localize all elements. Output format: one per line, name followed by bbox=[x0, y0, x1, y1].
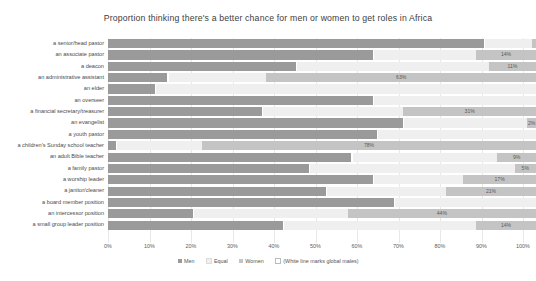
stacked-bar[interactable]: 63% bbox=[108, 73, 536, 82]
x-axis-tick: 40% bbox=[269, 243, 280, 249]
chart-row: an elder0% bbox=[0, 83, 536, 94]
global-male-marker bbox=[309, 164, 310, 173]
x-axis-tick: 90% bbox=[476, 243, 487, 249]
stacked-bar[interactable]: 1% bbox=[108, 39, 536, 48]
legend-item[interactable]: Men bbox=[178, 258, 195, 264]
chart-row: a worship leader17% bbox=[0, 174, 536, 185]
bar-segment-men[interactable] bbox=[108, 187, 326, 196]
bar-segment-equal[interactable] bbox=[373, 96, 536, 105]
bar-segment-women[interactable]: 9% bbox=[497, 153, 536, 162]
global-male-marker bbox=[403, 118, 404, 127]
chart-row: a family pastor5% bbox=[0, 163, 536, 174]
bar-segment-equal[interactable] bbox=[283, 221, 476, 230]
x-axis: 0%10%20%30%40%50%60%70%80%90%100% bbox=[108, 243, 523, 255]
legend-swatch-icon bbox=[239, 259, 243, 263]
global-male-marker bbox=[373, 50, 374, 59]
global-male-marker bbox=[296, 62, 297, 71]
bar-segment-equal[interactable] bbox=[326, 187, 446, 196]
stacked-bar[interactable]: 1% bbox=[108, 198, 536, 207]
bar-segment-men[interactable] bbox=[108, 84, 155, 93]
stacked-bar[interactable]: 2% bbox=[108, 118, 536, 127]
bar-segment-women[interactable]: 11% bbox=[489, 62, 536, 71]
bar-segment-equal[interactable] bbox=[262, 107, 403, 116]
bar-value-label: 2% bbox=[528, 121, 535, 126]
bar-segment-equal[interactable] bbox=[296, 62, 489, 71]
bar-segment-equal[interactable] bbox=[168, 73, 266, 82]
stacked-bar[interactable]: 0% bbox=[108, 96, 536, 105]
bar-segment-men[interactable] bbox=[108, 164, 309, 173]
bar-segment-women[interactable]: 63% bbox=[266, 73, 536, 82]
bar-segment-women[interactable]: 17% bbox=[463, 175, 536, 184]
category-label: a board member position bbox=[0, 200, 108, 206]
bar-segment-equal[interactable] bbox=[155, 84, 536, 93]
chart-container: Proportion thinking there's a better cha… bbox=[0, 0, 536, 281]
bar-segment-equal[interactable] bbox=[194, 209, 348, 218]
bar-segment-men[interactable] bbox=[108, 96, 373, 105]
category-label: an intercessor position bbox=[0, 211, 108, 217]
chart-row: a small group leader position14% bbox=[0, 220, 536, 231]
chart-legend: MenEqualWomen(White line marks global ma… bbox=[0, 258, 536, 264]
stacked-bar[interactable]: 5% bbox=[108, 164, 536, 173]
bar-segment-men[interactable] bbox=[108, 118, 403, 127]
stacked-bar[interactable]: 14% bbox=[108, 221, 536, 230]
x-axis-tick: 50% bbox=[310, 243, 321, 249]
bar-segment-women[interactable]: 1% bbox=[532, 39, 536, 48]
bar-value-label: 11% bbox=[508, 64, 518, 69]
global-male-marker bbox=[262, 107, 263, 116]
bar-segment-equal[interactable] bbox=[352, 153, 498, 162]
legend-item[interactable]: Women bbox=[239, 258, 264, 264]
bar-segment-equal[interactable] bbox=[373, 175, 463, 184]
stacked-bar[interactable]: 31% bbox=[108, 107, 536, 116]
legend-item[interactable]: (White line marks global males) bbox=[275, 258, 359, 264]
bar-segment-men[interactable] bbox=[108, 73, 168, 82]
legend-item[interactable]: Equal bbox=[206, 258, 228, 264]
category-label: a financial secretary/treasurer bbox=[0, 109, 108, 115]
global-male-marker bbox=[377, 130, 378, 139]
stacked-bar[interactable]: 11% bbox=[108, 62, 536, 71]
bar-segment-equal[interactable] bbox=[403, 118, 527, 127]
bar-segment-equal[interactable] bbox=[117, 141, 203, 150]
legend-swatch-icon bbox=[206, 258, 212, 264]
bar-segment-women[interactable]: 44% bbox=[348, 209, 536, 218]
bar-value-label: 17% bbox=[495, 177, 505, 182]
global-male-marker bbox=[484, 39, 485, 48]
category-label: an evangelist bbox=[0, 120, 108, 126]
stacked-bar[interactable]: 17% bbox=[108, 175, 536, 184]
bar-segment-women[interactable]: 5% bbox=[515, 164, 536, 173]
stacked-bar[interactable]: 9% bbox=[108, 153, 536, 162]
bar-segment-men[interactable] bbox=[108, 153, 352, 162]
bar-segment-men[interactable] bbox=[108, 198, 395, 207]
bar-segment-women[interactable]: 14% bbox=[476, 221, 536, 230]
chart-row: an administrative assistant63% bbox=[0, 72, 536, 83]
bar-value-label: 44% bbox=[437, 211, 447, 216]
bar-segment-men[interactable] bbox=[108, 130, 378, 139]
stacked-bar[interactable]: 21% bbox=[108, 187, 536, 196]
bar-segment-equal[interactable] bbox=[378, 130, 536, 139]
bar-segment-men[interactable] bbox=[108, 39, 485, 48]
stacked-bar[interactable]: 78% bbox=[108, 141, 536, 150]
bar-segment-men[interactable] bbox=[108, 209, 194, 218]
category-label: an associate pastor bbox=[0, 52, 108, 58]
bar-segment-men[interactable] bbox=[108, 50, 373, 59]
bar-segment-men[interactable] bbox=[108, 62, 296, 71]
bar-value-label: 14% bbox=[501, 223, 511, 228]
bar-segment-women[interactable]: 31% bbox=[403, 107, 536, 116]
stacked-bar[interactable]: 44% bbox=[108, 209, 536, 218]
stacked-bar[interactable]: 14% bbox=[108, 50, 536, 59]
bar-segment-equal[interactable] bbox=[395, 198, 536, 207]
stacked-bar[interactable]: 0% bbox=[108, 84, 536, 93]
bar-segment-men[interactable] bbox=[108, 107, 262, 116]
bar-segment-women[interactable]: 21% bbox=[446, 187, 536, 196]
bar-value-label: 9% bbox=[513, 155, 520, 160]
bar-segment-equal[interactable] bbox=[485, 39, 532, 48]
bar-segment-women[interactable]: 2% bbox=[527, 118, 536, 127]
chart-title: Proportion thinking there's a better cha… bbox=[0, 13, 536, 23]
bar-segment-women[interactable]: 14% bbox=[476, 50, 536, 59]
stacked-bar[interactable]: 0% bbox=[108, 130, 536, 139]
bar-segment-equal[interactable] bbox=[309, 164, 514, 173]
bar-segment-women[interactable]: 78% bbox=[202, 141, 536, 150]
x-axis-tick: 20% bbox=[186, 243, 197, 249]
bar-segment-men[interactable] bbox=[108, 221, 283, 230]
bar-segment-equal[interactable] bbox=[373, 50, 476, 59]
bar-segment-men[interactable] bbox=[108, 175, 373, 184]
